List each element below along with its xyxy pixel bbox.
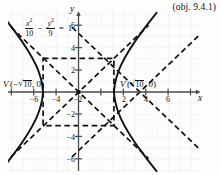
vertex-label-left: V (− √ 10 , 0) [3,79,44,89]
y-tick-label-minus4: −4 [61,133,75,142]
x-tick-label-4: 4 [141,95,151,104]
y-tick-label-2: 2 [63,66,75,75]
vertex-left-close: , 0) [32,79,44,89]
y-tick-label-6: 6 [63,21,75,30]
x-tick-label-6: 6 [163,95,173,104]
equation-term1-exponent: 2 [30,17,33,23]
vertex-right-radicand: 10 [135,80,144,90]
equation-term2-exponent: 2 [51,17,54,23]
equation-term-2: y2 9 [46,18,54,38]
x-tick-label-minus2: −2 [71,95,85,104]
y-axis-label: y [70,4,74,14]
origin-point [77,90,81,94]
x-tick-label-2: 2 [119,95,129,104]
objective-tag: (obj. 9.4.1) [173,2,216,12]
equation-term2-denominator: 9 [49,29,53,38]
y-tick-label-4: 4 [63,44,75,53]
equation-term1-denominator: 10 [25,29,33,38]
vertex-left-radicand: 10 [23,80,32,90]
vertex-right-v: V [120,79,126,89]
x-tick-label-minus4: −4 [49,95,63,104]
vertex-left-radical: √ 10 [18,79,32,89]
vertex-left-open-paren: (− [10,79,18,89]
vertex-right-radical: √ 10 [130,79,144,89]
x-axis-label: x [198,93,202,103]
equation-term-1: x2 10 [25,18,33,38]
vertex-left-v: V [3,79,9,89]
vertex-right-close: , 0) [144,79,156,89]
x-tick-label-minus6: −6 [27,95,41,104]
y-tick-label-minus2: −2 [61,110,75,119]
figure-page: (obj. 9.4.1) x2 10 − y2 9 = 1 V (− √ 10 … [0,0,221,175]
equation-operator: − [36,23,43,33]
vertex-label-right: V ( √ 10 , 0) [120,79,156,89]
y-tick-label-minus6: −6 [61,155,75,164]
